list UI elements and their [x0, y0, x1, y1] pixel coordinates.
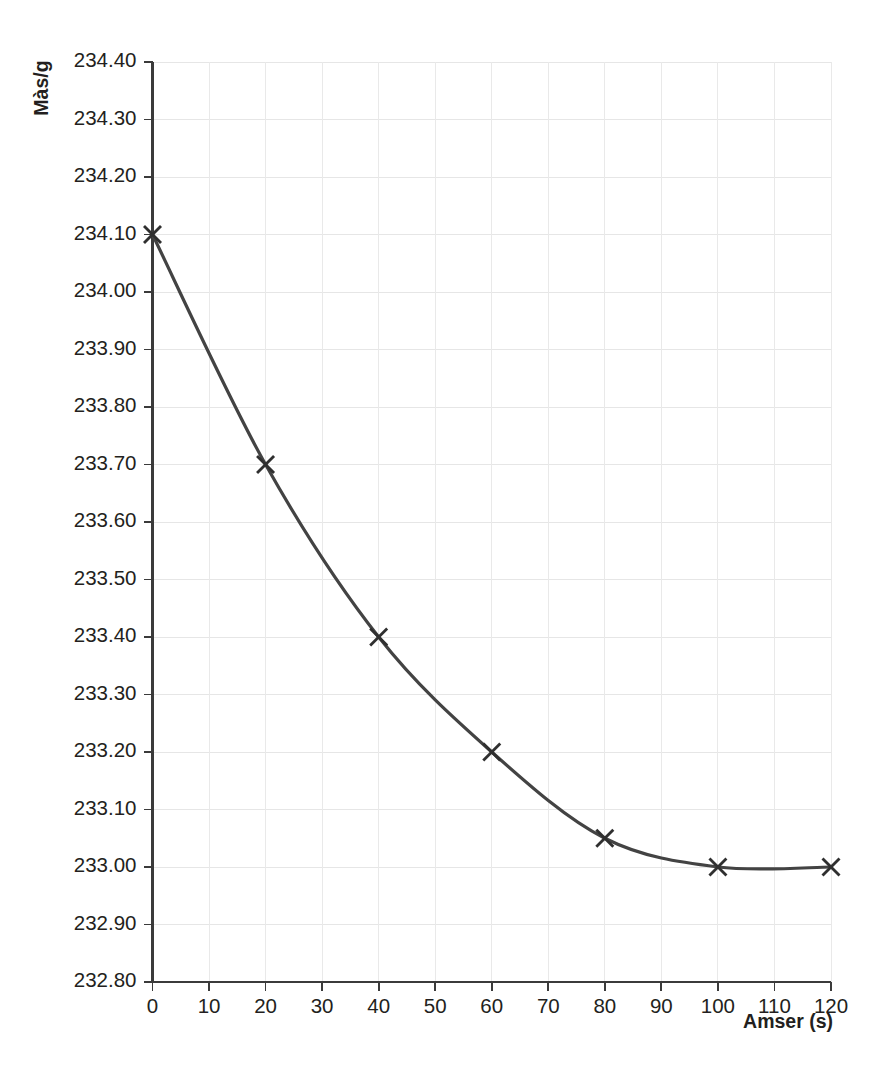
x-tick-label: 20 [254, 994, 277, 1017]
y-axis-title: Màs/g [30, 60, 52, 115]
y-tick-label: 233.30 [74, 681, 137, 704]
x-axis-title: Amser (s) [743, 1010, 833, 1032]
y-tick-label: 233.60 [74, 508, 137, 531]
x-tick-label: 30 [311, 994, 334, 1017]
y-tick-label: 234.30 [74, 106, 137, 129]
y-tick-label: 232.80 [74, 968, 137, 991]
y-tick-label: 234.00 [74, 278, 137, 301]
y-tick-label: 233.00 [74, 853, 137, 876]
y-tick-label: 233.70 [74, 451, 137, 474]
x-tick-label: 40 [367, 994, 390, 1017]
y-tick-label: 233.40 [74, 623, 137, 646]
y-tick-label: 233.50 [74, 566, 137, 589]
x-tick-label: 60 [480, 994, 503, 1017]
x-tick-label: 0 [147, 994, 158, 1017]
x-tick-label: 100 [701, 994, 735, 1017]
x-tick-label: 10 [198, 994, 221, 1017]
y-tick-label: 233.80 [74, 393, 137, 416]
x-tick-label: 90 [650, 994, 673, 1017]
x-tick-label: 80 [593, 994, 616, 1017]
x-tick-label: 70 [537, 994, 560, 1017]
chart-container: 232.80232.90233.00233.10233.20233.30233.… [0, 0, 883, 1086]
line-chart: 232.80232.90233.00233.10233.20233.30233.… [0, 0, 883, 1086]
y-tick-label: 234.20 [74, 163, 137, 186]
x-tick-label: 50 [424, 994, 447, 1017]
y-tick-label: 234.40 [74, 48, 137, 71]
y-tick-label: 233.90 [74, 336, 137, 359]
y-tick-label: 233.10 [74, 796, 137, 819]
y-tick-label: 232.90 [74, 911, 137, 934]
y-tick-label: 233.20 [74, 738, 137, 761]
y-tick-label: 234.10 [74, 221, 137, 244]
